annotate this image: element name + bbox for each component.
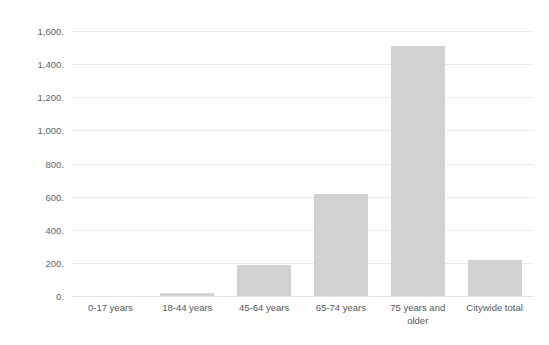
bar-slot: [72, 31, 149, 296]
x-axis-tick-label: 45-64 years: [226, 302, 303, 315]
bar-slot: [149, 31, 226, 296]
y-axis-tick-label: 400.: [8, 224, 64, 235]
gridline: [72, 296, 533, 297]
bar: [391, 46, 445, 296]
y-axis-tick-label: 800.: [8, 158, 64, 169]
bar: [468, 260, 522, 296]
x-axis-tick-label: 0-17 years: [72, 302, 149, 315]
y-axis-tick-label: 0.: [8, 291, 64, 302]
y-axis-tick-label: 200.: [8, 257, 64, 268]
y-axis-tick-label: 600.: [8, 191, 64, 202]
bar: [237, 265, 291, 296]
x-axis-tick-label: 18-44 years: [149, 302, 226, 315]
bar: [160, 293, 214, 296]
bar-series: [72, 31, 533, 296]
bar-slot: [379, 31, 456, 296]
bar-chart: 0.200.400.600.800.1,000.1,200.1,400.1,60…: [0, 0, 549, 345]
y-axis-tick-label: 1,200.: [8, 92, 64, 103]
bar-slot: [226, 31, 303, 296]
y-axis-tick-label: 1,000.: [8, 125, 64, 136]
bar: [314, 194, 368, 296]
x-axis-tick-label: 65-74 years: [303, 302, 380, 315]
y-axis-labels: 0.200.400.600.800.1,000.1,200.1,400.1,60…: [8, 31, 64, 296]
bar-slot: [456, 31, 533, 296]
y-axis-tick-label: 1,400.: [8, 59, 64, 70]
x-axis-tick-label: Citywide total: [456, 302, 533, 315]
x-axis-labels: 0-17 years18-44 years45-64 years65-74 ye…: [72, 302, 533, 342]
x-axis-tick-label: 75 years and older: [379, 302, 456, 327]
y-axis-tick-label: 1,600.: [8, 26, 64, 37]
bar-slot: [303, 31, 380, 296]
